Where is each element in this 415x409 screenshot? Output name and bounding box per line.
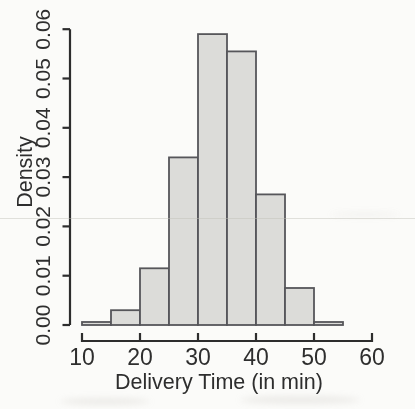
histogram-bar-35-40	[227, 51, 256, 325]
histogram-bar-45-50	[285, 288, 314, 325]
histogram-bar-20-25	[140, 268, 169, 325]
x-tick-label-20: 20	[127, 344, 153, 370]
x-tick-label-30: 30	[185, 344, 211, 370]
y-tick-label-0.06: 0.06	[31, 9, 54, 50]
y-tick-label-0.00: 0.00	[31, 305, 54, 346]
bars-layer	[82, 34, 343, 325]
histogram-plot: 0.000.010.020.030.040.050.06102030405060…	[0, 0, 415, 409]
histogram-bar-10-15	[82, 322, 111, 325]
x-tick-label-40: 40	[243, 344, 269, 370]
histogram-bar-25-30	[169, 157, 198, 325]
x-axis-title: Delivery Time (in min)	[115, 370, 323, 394]
y-tick-label-0.01: 0.01	[31, 255, 54, 296]
y-tick-label-0.05: 0.05	[31, 58, 54, 99]
x-tick-label-10: 10	[69, 344, 95, 370]
histogram-bar-15-20	[111, 310, 140, 325]
histogram-bar-50-55	[314, 322, 343, 325]
scanned-page: 0.000.010.020.030.040.050.06102030405060…	[0, 0, 415, 409]
y-tick-label-0.02: 0.02	[31, 206, 54, 247]
x-tick-label-50: 50	[301, 344, 327, 370]
y-axis-title: Density	[13, 136, 37, 208]
x-tick-label-60: 60	[359, 344, 385, 370]
histogram-bar-40-45	[256, 194, 285, 325]
delivery-time-histogram: 0.000.010.020.030.040.050.06102030405060…	[0, 0, 415, 409]
histogram-bar-30-35	[198, 34, 227, 325]
